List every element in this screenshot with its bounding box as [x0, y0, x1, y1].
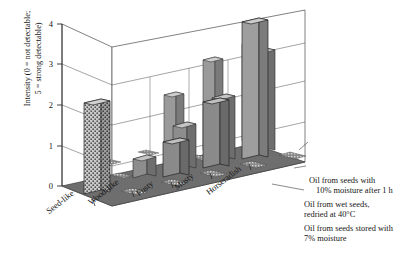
bar-front-fusty	[163, 138, 189, 177]
bar-front-musty	[203, 98, 229, 168]
y-tick-label-3: 3	[41, 59, 53, 69]
legend-entry-seeds-7-moisture: Oil from seeds stored with 7% moisture	[304, 224, 393, 244]
legend-line-2: 10% moisture after 1 h	[309, 186, 393, 196]
y-tick-label-0: 0	[41, 181, 53, 191]
bar-front-seedlike	[84, 99, 110, 194]
y-tick-label-1: 1	[41, 141, 53, 151]
legend-line-1: Oil from seeds stored with	[304, 224, 393, 234]
y-axis	[57, 24, 62, 186]
legend-entry-wet-seeds-redried: Oil from wet seeds, redried at 40°C	[304, 200, 370, 220]
legend-line-1: Oil from wet seeds,	[304, 200, 370, 210]
legend-line-2: redried at 40°C	[304, 210, 370, 220]
y-tick-label-2: 2	[41, 100, 53, 110]
legend-line-2: 7% moisture	[304, 234, 393, 244]
y-tick-label-4: 4	[41, 19, 53, 29]
bar-middle-woodlike	[133, 155, 156, 178]
legend-entry-seeds-10-moisture: Oil from seeds with 10% moisture after 1…	[309, 176, 393, 196]
legend-line-1: Oil from seeds with	[309, 176, 393, 186]
chart-figure: Intensity (0 = not detectable; 5 = stron…	[0, 0, 416, 263]
y-axis-label-line1: Intensity (0 = not detectable;	[23, 11, 32, 106]
bar-front-horseradish	[242, 18, 268, 159]
